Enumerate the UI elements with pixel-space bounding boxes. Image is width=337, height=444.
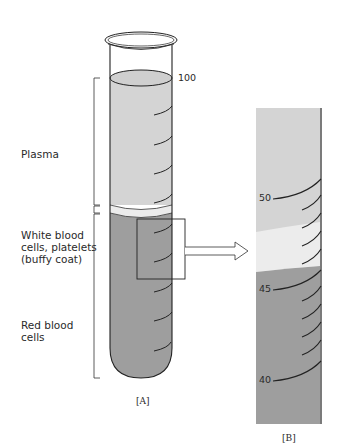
scale-label-45: 45	[259, 283, 271, 294]
layer-brackets	[94, 78, 100, 378]
magnified-plasma	[256, 108, 320, 232]
buffy-bracket	[94, 206, 100, 213]
zoom-arrow	[185, 242, 248, 260]
blood-tube-diagram	[0, 0, 337, 444]
scale-label-40: 40	[259, 374, 271, 385]
label-buffy-coat: White blood cells, platelets (buffy coat…	[21, 229, 97, 265]
plasma-bracket	[94, 78, 100, 205]
label-plasma: Plasma	[21, 148, 59, 160]
panel-b-label: [B]	[282, 433, 296, 443]
plasma-layer	[110, 78, 172, 205]
scale-label-50: 50	[259, 192, 271, 203]
panel-a-label: [A]	[136, 396, 150, 406]
label-red-blood-cells: Red blood cells	[21, 319, 73, 343]
meniscus	[110, 70, 172, 86]
test-tube	[105, 32, 177, 378]
tube-rim	[105, 32, 177, 48]
scale-label-100: 100	[178, 72, 196, 83]
red-cells-layer	[110, 213, 172, 378]
